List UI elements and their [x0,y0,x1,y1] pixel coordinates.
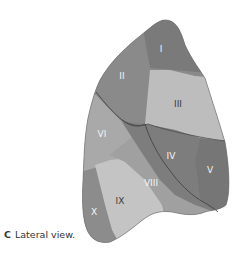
segment-I [140,10,238,75]
segment-label-I: I [160,44,163,54]
segment-label-IV: IV [167,151,177,161]
panel-letter: C [4,229,11,240]
caption-text: Lateral view. [15,229,75,240]
figure-caption: CLateral view. [4,229,75,240]
segment-label-VI: VI [98,129,107,139]
segment-label-III: III [174,99,182,109]
segment-label-V: V [207,165,214,175]
segment-label-VIII: VIII [144,178,158,188]
segment-label-X: X [91,207,97,217]
segment-label-IX: IX [116,196,125,206]
segment-label-II: II [119,71,124,81]
